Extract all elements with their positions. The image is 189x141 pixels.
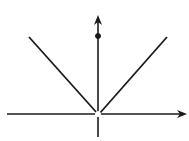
graph-canvas: [0, 0, 189, 141]
left-branch-line: [29, 37, 97, 113]
right-branch-line: [100, 37, 167, 113]
function-graph: [0, 0, 189, 141]
filled-point: [96, 34, 101, 39]
open-point-origin: [96, 112, 101, 117]
